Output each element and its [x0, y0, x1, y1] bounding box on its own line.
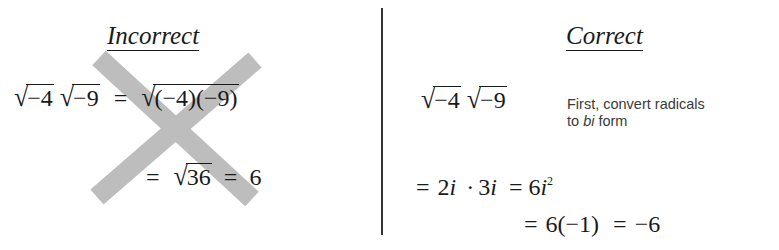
radical: √−9: [467, 86, 507, 114]
radical: √−4: [421, 86, 461, 114]
incorrect-heading: Incorrect: [107, 22, 199, 51]
sqrt-icon: √: [421, 85, 435, 114]
equals-sign: =: [114, 85, 128, 111]
sqrt-icon: √: [467, 85, 481, 114]
radical: √−9: [60, 84, 100, 112]
note-line-2: to bi form: [567, 113, 705, 130]
equals-sign: =: [146, 164, 160, 190]
multiply-dot: ·: [466, 174, 474, 200]
correct-equation-line-2: =2i ·3i =6i2: [416, 167, 553, 201]
radical: √36: [174, 163, 212, 191]
radical: √(−4)(−9): [141, 84, 238, 112]
equals-sign: =: [224, 164, 238, 190]
sqrt-icon: √: [14, 83, 28, 112]
equals-sign: =: [416, 174, 430, 200]
incorrect-equation-line-2: = √36 = 6: [146, 163, 261, 191]
note-line-1: First, convert radicals: [567, 96, 705, 113]
equals-sign: =: [524, 211, 538, 237]
sqrt-icon: √: [141, 83, 155, 112]
equals-sign: =: [509, 174, 523, 200]
correct-equation-line-3: =6(−1) =−6: [524, 210, 660, 238]
column-divider: [381, 8, 383, 235]
correct-heading: Correct: [566, 22, 643, 51]
incorrect-equation-line-1: √−4 √−9 = √(−4)(−9): [14, 84, 239, 112]
sqrt-icon: √: [60, 83, 74, 112]
correct-equation-line-1: √−4 √−9: [421, 86, 507, 114]
sqrt-icon: √: [174, 162, 188, 191]
result-value: 6: [249, 164, 261, 190]
radical: √−4: [14, 84, 54, 112]
result-value: −6: [635, 211, 661, 237]
equals-sign: =: [613, 211, 627, 237]
step-note: First, convert radicals to bi form: [567, 96, 705, 130]
